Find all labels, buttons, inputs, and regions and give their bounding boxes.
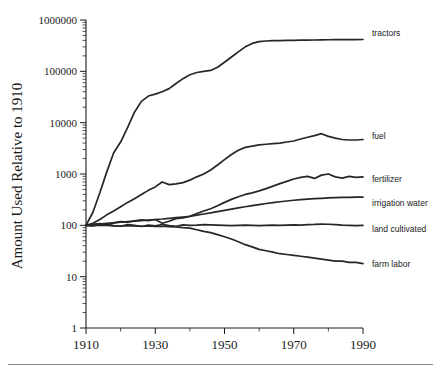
y-axis-title-group: Amount Used Relative to 1910 (9, 83, 25, 270)
series-label-fuel: fuel (372, 131, 386, 141)
series-label-fertilizer: fertilizer (372, 174, 402, 184)
y-tick-label: 10 (66, 271, 78, 283)
series-label-irrigation-water: irrigation water (372, 198, 428, 208)
footer-divider (8, 364, 433, 365)
series-label-farm-labor: farm labor (372, 259, 410, 269)
line-chart: Amount Used Relative to 1910 11010010001… (0, 0, 441, 376)
series-line-irrigation-water (86, 197, 363, 225)
series-label-land-cultivated: land cultivated (372, 224, 427, 234)
y-axis-title: Amount Used Relative to 1910 (9, 83, 25, 270)
series-line-fuel (86, 134, 363, 226)
series-line-tractors (86, 40, 363, 226)
series-lines (86, 40, 363, 264)
series-label-tractors: tractors (372, 28, 400, 38)
y-tick-label: 1 (72, 322, 78, 334)
x-tick-label: 1930 (142, 337, 168, 352)
series-labels: tractorsfuelfertilizerirrigation waterla… (372, 28, 428, 269)
series-line-fertilizer (86, 174, 363, 225)
x-axis-ticks: 19101930195019701990 (73, 328, 376, 352)
x-tick-label: 1970 (281, 337, 307, 352)
y-tick-label: 100 (61, 219, 78, 231)
y-tick-label: 10000 (50, 117, 78, 129)
x-tick-label: 1910 (73, 337, 99, 352)
y-tick-label: 1000 (55, 168, 78, 180)
x-tick-label: 1990 (350, 337, 376, 352)
series-line-farm-labor (86, 225, 363, 263)
figure-container: Amount Used Relative to 1910 11010010001… (0, 0, 441, 376)
y-tick-label: 1000000 (39, 14, 78, 26)
x-tick-label: 1950 (212, 337, 238, 352)
y-tick-label: 100000 (44, 65, 78, 77)
y-axis-ticks: 1101001000100001000001000000 (39, 14, 87, 334)
